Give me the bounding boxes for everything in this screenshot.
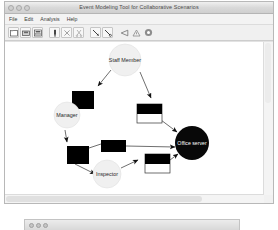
place-label-manager: Manager [56,112,77,118]
transition-t5[interactable] [145,154,170,173]
transition-t3[interactable] [101,140,126,152]
place-inspector[interactable]: Inspector [93,160,121,188]
save-icon[interactable] [20,27,31,38]
background-window-controls [29,223,48,228]
warning-icon[interactable] [131,27,142,38]
place-glyph [51,29,59,37]
canvas-area[interactable]: Staff Member Manager Inspector Office se… [5,41,273,203]
transition-t4[interactable] [67,146,89,164]
horizontal-scrollbar[interactable] [5,194,264,203]
menu-analysis[interactable]: Analysis [40,14,59,24]
inhibitor-arc-icon[interactable] [102,27,113,38]
zoom-button[interactable] [43,223,48,228]
place-node-icon[interactable] [49,27,60,38]
vertical-scrollbar[interactable] [263,42,273,195]
place-staff-member[interactable]: Staff Member [109,44,141,76]
inhibitor-arc-glyph [104,29,112,37]
arc-manager-to-t4 [65,130,67,142]
cut-glyph [75,29,83,37]
diagram-canvas[interactable]: Staff Member Manager Inspector Office se… [5,42,273,203]
cut-icon[interactable] [73,27,84,38]
menu-bar: File Edit Analysis Help [5,14,273,25]
application-window: Event Modeling Tool for Collaborative Sc… [4,1,274,204]
arc-t3-to-server [126,146,175,147]
horizontal-scrollbar-thumb[interactable] [6,196,202,202]
print-icon[interactable] [32,27,43,38]
arc-inspector-to-t5 [121,160,138,168]
menu-edit[interactable]: Edit [24,14,33,24]
scrollbar-corner [264,195,273,203]
arc-t5-to-server [170,154,178,160]
place-label-office-server: Office server [177,140,207,146]
vertical-scrollbar-thumb[interactable] [265,43,271,103]
warning-glyph [132,29,141,37]
arc-tool-icon[interactable] [90,27,101,38]
arc-staff-to-t1 [98,70,111,86]
place-manager[interactable]: Manager [54,102,80,128]
place-label-inspector: Inspector [96,171,118,177]
toolbar [5,25,273,41]
run-glyph [144,28,153,37]
select-arrow-glyph [120,29,129,37]
menu-file[interactable]: File [9,14,17,24]
minimize-button[interactable] [36,223,41,228]
run-icon[interactable] [143,27,154,38]
print-glyph [34,29,42,37]
delete-glyph [63,29,71,37]
close-button[interactable] [29,223,34,228]
place-office-server[interactable]: Office server [175,126,209,160]
place-label-staff-member: Staff Member [109,57,141,63]
arc-t2-to-server [161,120,177,132]
window-title: Event Modeling Tool for Collaborative Sc… [5,2,273,13]
select-arrow-icon[interactable] [119,27,130,38]
desktop-background [0,204,278,219]
title-bar[interactable]: Event Modeling Tool for Collaborative Sc… [5,2,273,14]
arc-staff-to-t2 [140,72,151,98]
menu-help[interactable]: Help [67,14,78,24]
save-glyph [22,29,30,37]
arc-glyph [92,29,100,37]
new-file-icon[interactable] [8,27,19,38]
transition-t2[interactable] [137,104,162,123]
petri-net-diagram: Staff Member Manager Inspector Office se… [5,42,265,203]
arc-t4-to-inspector [75,164,95,174]
background-window-titlebar[interactable] [24,219,240,230]
delete-icon[interactable] [61,27,72,38]
new-file-glyph [10,29,18,37]
